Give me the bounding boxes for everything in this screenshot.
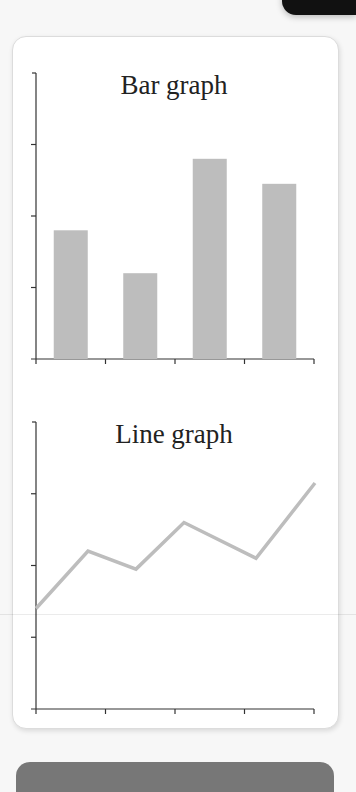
divider-line xyxy=(0,614,356,615)
line-series xyxy=(36,483,315,609)
line-chart: Line graph xyxy=(31,419,315,714)
bottom-bar[interactable] xyxy=(16,762,334,792)
bar-chart-title: Bar graph xyxy=(120,70,228,100)
bar xyxy=(54,230,88,359)
line-chart-title: Line graph xyxy=(115,419,233,449)
bar xyxy=(262,184,296,359)
bar-series xyxy=(54,159,297,359)
charts-card: Bar graph Line graph xyxy=(12,36,339,729)
top-tab[interactable] xyxy=(282,0,356,15)
bar-chart: Bar graph xyxy=(13,37,314,364)
bar xyxy=(123,273,157,359)
bar xyxy=(193,159,227,359)
